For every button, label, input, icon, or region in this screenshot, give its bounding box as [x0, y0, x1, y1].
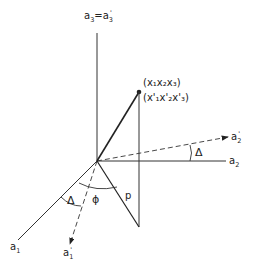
- position-vector: [97, 92, 139, 161]
- label-a1-prime: a1': [63, 246, 73, 261]
- axis-a2-prime: [97, 137, 228, 161]
- label-a3: a3=a3': [84, 9, 113, 24]
- label-a1: a1: [10, 241, 20, 255]
- axis-a1: [18, 161, 97, 240]
- label-a2: a2: [229, 155, 239, 169]
- label-point-coords: (x₁x₂x₃): [143, 77, 181, 88]
- label-point-coords-prime: (x'₁x'₂x'₃): [143, 92, 189, 103]
- label-phi: ϕ: [92, 193, 99, 206]
- label-a2-prime: a2': [231, 130, 241, 145]
- label-delta-bottom: Δ: [67, 194, 75, 207]
- axis-rotation-diagram: a3=a3' (x₁x₂x₃) (x'₁x'₂x'₃) a2 a2' a1 a1…: [0, 0, 253, 270]
- label-delta-right: Δ: [195, 146, 203, 159]
- segment-p: [97, 161, 139, 227]
- angle-delta-right-arc: [190, 145, 192, 161]
- label-p: p: [125, 190, 131, 201]
